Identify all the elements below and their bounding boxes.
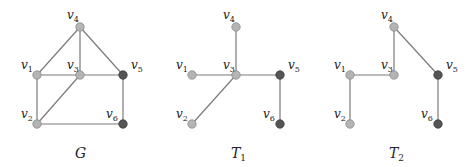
- vertex-label-v5: v5: [446, 58, 458, 74]
- vertex-label-subscript: 4: [388, 15, 393, 24]
- vertex-label-v4: v4: [223, 8, 235, 24]
- vertex-v2: [346, 120, 354, 128]
- vertex-label-subscript: 3: [74, 65, 79, 74]
- edge-v4-v5: [394, 27, 438, 75]
- vertex-label-v2: v2: [176, 107, 188, 123]
- caption-subscript: 1: [240, 153, 246, 163]
- graph-caption: T2: [389, 145, 404, 163]
- vertex-label-subscript: 6: [428, 114, 433, 123]
- graph-T2: v1v2v3v4v5v6T2: [334, 8, 458, 163]
- vertex-v5: [119, 71, 127, 79]
- vertex-label-v5: v5: [288, 58, 300, 74]
- vertex-label-subscript: 2: [28, 114, 33, 123]
- vertex-label-subscript: 1: [28, 65, 33, 74]
- vertex-label-subscript: 4: [74, 15, 79, 24]
- vertex-label-v2: v2: [334, 107, 346, 123]
- vertex-label-v4: v4: [67, 8, 79, 24]
- vertex-v6: [119, 120, 127, 128]
- vertex-v6: [276, 120, 284, 128]
- graph-T1: v1v2v3v4v5v6T1: [176, 8, 300, 163]
- vertex-label-subscript: 6: [113, 114, 118, 123]
- vertex-v4: [232, 23, 240, 31]
- vertex-label-subscript: 5: [295, 65, 300, 74]
- vertex-label-subscript: 2: [183, 114, 188, 123]
- vertex-v1: [346, 71, 354, 79]
- vertex-label-v1: v1: [21, 58, 33, 74]
- vertex-label-v6: v6: [263, 107, 275, 123]
- vertex-v2: [188, 120, 196, 128]
- vertex-label-v1: v1: [176, 58, 188, 74]
- vertex-label-subscript: 2: [341, 114, 346, 123]
- vertex-label-v5: v5: [131, 58, 143, 74]
- vertex-label-v6: v6: [421, 107, 433, 123]
- vertex-label-subscript: 6: [270, 114, 275, 123]
- vertex-label-v1: v1: [334, 58, 346, 74]
- graph-caption: G: [75, 145, 86, 161]
- vertex-v1: [188, 71, 196, 79]
- vertex-label-subscript: 4: [230, 15, 235, 24]
- vertex-label-v6: v6: [106, 107, 118, 123]
- graph-figure: v1v2v3v4v5v6Gv1v2v3v4v5v6T1v1v2v3v4v5v6T…: [0, 0, 473, 167]
- vertex-label-v4: v4: [381, 8, 393, 24]
- edge-v3-v2: [192, 75, 236, 124]
- vertex-v2: [33, 120, 41, 128]
- vertex-label-subscript: 1: [183, 65, 188, 74]
- caption-main: G: [75, 145, 86, 161]
- vertex-label-subscript: 3: [230, 65, 235, 74]
- vertex-label-subscript: 3: [388, 65, 393, 74]
- edge-v4-v5: [80, 27, 123, 75]
- vertex-v5: [276, 71, 284, 79]
- vertex-v4: [76, 23, 84, 31]
- vertex-label-v3: v3: [67, 58, 79, 74]
- vertex-label-subscript: 5: [138, 65, 143, 74]
- edge-v3-v2: [37, 75, 80, 124]
- vertex-v4: [390, 23, 398, 31]
- vertex-v5: [434, 71, 442, 79]
- graph-caption: T1: [231, 145, 246, 163]
- vertex-label-v3: v3: [223, 58, 235, 74]
- caption-subscript: 2: [398, 153, 404, 163]
- vertex-label-v3: v3: [381, 58, 393, 74]
- vertex-v6: [434, 120, 442, 128]
- vertex-label-subscript: 1: [341, 65, 346, 74]
- vertex-label-subscript: 5: [453, 65, 458, 74]
- vertex-label-v2: v2: [21, 107, 33, 123]
- vertex-v1: [33, 71, 41, 79]
- graph-G: v1v2v3v4v5v6G: [21, 8, 143, 161]
